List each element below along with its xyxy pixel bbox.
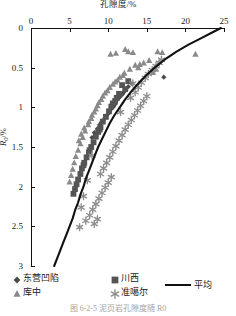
- data-point: [75, 147, 81, 153]
- data-point: [122, 126, 128, 133]
- legend-label: 东营凹陷: [23, 273, 59, 283]
- x-tick-label: 5: [67, 16, 72, 26]
- legend-triangle-icon: [12, 287, 22, 299]
- x-tick-label: 25: [220, 16, 229, 26]
- y-tick-label: 2: [19, 182, 24, 192]
- data-point: [100, 119, 106, 125]
- data-point: [101, 165, 107, 172]
- data-point: [70, 166, 76, 172]
- data-point: [119, 132, 125, 139]
- data-point: [97, 170, 103, 177]
- plot-area: 0510152025 00.511.522.53: [31, 28, 224, 266]
- data-point: [161, 75, 166, 80]
- data-point: [81, 162, 87, 168]
- data-point: [93, 134, 99, 140]
- x-tick-label: 20: [181, 16, 190, 26]
- data-point: [107, 154, 113, 161]
- x-tick-label: 0: [29, 16, 34, 26]
- data-point: [159, 49, 165, 55]
- legend-item-5[interactable]: 平均: [165, 279, 212, 291]
- data-point: [71, 191, 77, 197]
- data-point: [114, 95, 120, 101]
- data-point: [73, 153, 79, 159]
- data-point: [71, 159, 77, 165]
- figure-caption: 图 6-2-5 泥页岩孔隙度随 R0: [0, 303, 236, 314]
- legend-label: 库中: [23, 287, 41, 297]
- legend-label: 川西: [121, 273, 139, 283]
- y-axis-title: R0/%: [0, 128, 8, 146]
- chart-legend: 东营凹陷川西库中准噶尔平均: [0, 272, 236, 304]
- data-point: [127, 66, 133, 72]
- data-point: [87, 212, 93, 219]
- data-point: [113, 143, 119, 150]
- y-tick-label: 0: [19, 23, 24, 33]
- data-point: [154, 48, 160, 54]
- data-point: [78, 171, 84, 177]
- legend-item-2[interactable]: 川西: [110, 272, 139, 285]
- data-point: [108, 174, 114, 181]
- data-point: [102, 184, 108, 191]
- figure-container: 孔隙度/% 0510152025 00.511.522.53 R0/% 东营凹陷…: [0, 0, 236, 316]
- y-tick-mark: [31, 266, 35, 267]
- data-point: [93, 201, 99, 208]
- legend-item-4[interactable]: 准噶尔: [110, 286, 148, 299]
- data-point: [192, 51, 198, 57]
- legend-label: 平均: [194, 280, 212, 290]
- data-point: [68, 172, 74, 178]
- y-tick-label: 1: [19, 102, 24, 112]
- data-point: [107, 51, 113, 57]
- data-point: [66, 178, 72, 184]
- y-tick-label: 0.5: [12, 63, 23, 73]
- data-point: [96, 195, 102, 202]
- data-point: [97, 127, 103, 133]
- data-point: [125, 78, 131, 84]
- data-point: [110, 148, 116, 155]
- x-tick-label: 15: [142, 16, 151, 26]
- y-tick-label: 1.5: [12, 142, 23, 152]
- data-point: [90, 206, 96, 213]
- legend-square-icon: [110, 273, 120, 285]
- legend-label: 准噶尔: [121, 287, 148, 297]
- legend-item-3[interactable]: 库中: [12, 286, 41, 299]
- data-point: [113, 50, 119, 56]
- data-point: [78, 204, 84, 211]
- y-tick-label: 2.5: [12, 221, 23, 231]
- legend-item-1[interactable]: 东营凹陷: [12, 272, 59, 285]
- legend-diamond-icon: [12, 273, 22, 285]
- data-point: [104, 159, 110, 166]
- scatter-plot: [31, 28, 224, 266]
- legend-line-icon: [165, 284, 191, 286]
- data-point: [146, 57, 152, 63]
- data-point: [91, 220, 97, 227]
- data-point: [99, 190, 105, 197]
- legend-asterisk-icon: [110, 287, 120, 299]
- x-tick-label: 10: [104, 16, 113, 26]
- data-point: [116, 137, 122, 144]
- x-tick-mark: [224, 28, 225, 32]
- data-point: [122, 46, 128, 52]
- chart-title: 孔隙度/%: [0, 0, 236, 9]
- data-point: [77, 224, 83, 231]
- data-point: [83, 217, 89, 224]
- data-point: [110, 100, 116, 106]
- data-point: [130, 49, 136, 55]
- data-point: [122, 86, 128, 92]
- data-point: [106, 108, 112, 114]
- y-tick-label: 3: [19, 261, 24, 271]
